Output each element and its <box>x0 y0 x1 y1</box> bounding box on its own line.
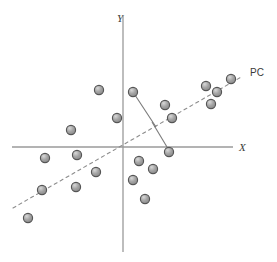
data-point <box>140 194 149 203</box>
plot-canvas: Y X PC <box>0 0 277 262</box>
data-point <box>23 213 32 222</box>
y-axis-label: Y <box>117 12 125 24</box>
data-point <box>128 87 137 96</box>
data-point <box>128 175 137 184</box>
pc-axis-line <box>13 76 243 208</box>
data-point <box>37 185 46 194</box>
x-axis-label: X <box>238 141 247 153</box>
data-point <box>212 87 221 96</box>
data-point <box>112 113 121 122</box>
data-point <box>201 81 210 90</box>
data-point <box>66 125 75 134</box>
data-point <box>40 153 49 162</box>
data-point <box>94 85 103 94</box>
data-points-group <box>23 74 235 222</box>
data-point <box>164 147 173 156</box>
scatter-plot-figure: Y X PC <box>0 0 277 262</box>
data-point <box>226 74 235 83</box>
data-point <box>72 150 81 159</box>
data-point <box>91 167 100 176</box>
data-point <box>148 164 157 173</box>
projection-line <box>133 92 156 127</box>
data-point <box>206 99 215 108</box>
data-point <box>167 113 176 122</box>
data-point <box>160 100 169 109</box>
pc-line-label: PC <box>250 67 264 78</box>
axes-group <box>12 16 233 252</box>
data-point <box>134 156 143 165</box>
data-point <box>71 182 80 191</box>
